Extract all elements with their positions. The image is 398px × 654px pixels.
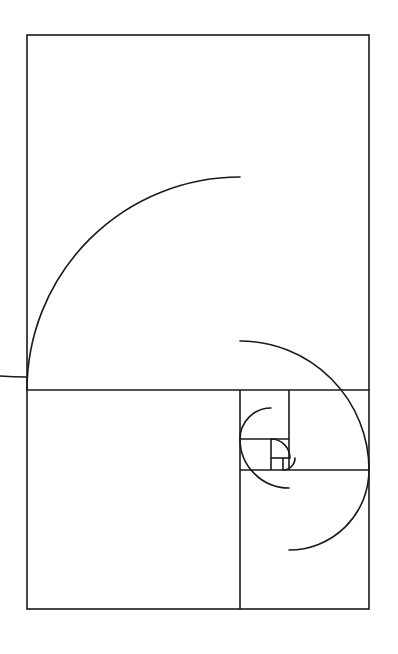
canvas-background xyxy=(0,0,398,654)
fibonacci-spiral-diagram xyxy=(0,0,398,654)
figure-root xyxy=(0,0,398,654)
